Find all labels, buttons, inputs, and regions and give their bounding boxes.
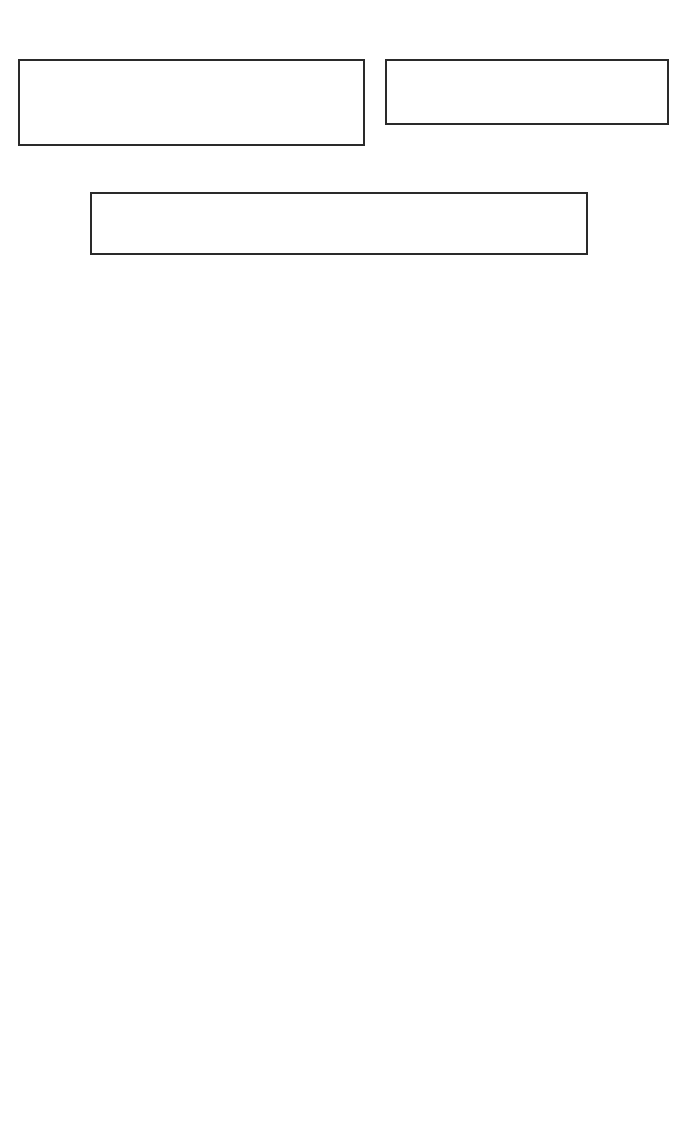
flowchart-canvas (0, 0, 693, 1143)
oci-box (386, 60, 668, 124)
lotran-box (19, 60, 364, 145)
obtain-box (91, 193, 587, 254)
